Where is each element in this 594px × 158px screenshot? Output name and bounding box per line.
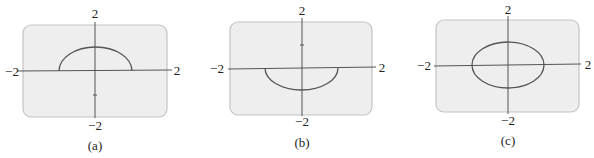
caption-a: (a) — [88, 138, 102, 153]
label-bottom-c: −2 — [501, 113, 515, 128]
panel-a: 2 −2 2 −2 (a) — [5, 6, 180, 153]
label-top-a: 2 — [92, 6, 99, 21]
figure: 2 −2 2 −2 (a) 2 −2 2 −2 (b) 2 −2 2 −2 (c… — [0, 0, 594, 158]
label-right-a: 2 — [174, 63, 181, 78]
label-bottom-b: −2 — [295, 114, 309, 129]
panel-b: 2 −2 2 −2 (b) — [210, 3, 385, 150]
label-top-b: 2 — [299, 3, 306, 18]
label-left-a: −2 — [5, 64, 19, 79]
label-right-c: 2 — [585, 57, 592, 72]
label-bottom-a: −2 — [88, 118, 102, 133]
caption-b: (b) — [294, 135, 309, 150]
label-top-c: 2 — [505, 2, 512, 17]
panel-c: 2 −2 2 −2 (c) — [417, 2, 591, 148]
label-left-c: −2 — [417, 58, 431, 73]
caption-c: (c) — [501, 133, 515, 148]
label-left-b: −2 — [210, 61, 224, 76]
label-right-b: 2 — [379, 60, 386, 75]
